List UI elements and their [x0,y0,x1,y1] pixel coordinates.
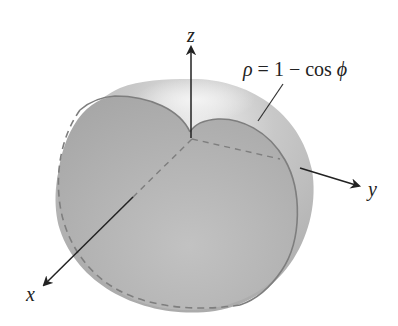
y-axis-label: y [368,178,377,201]
x-axis-label: x [26,283,35,306]
z-axis-label: z [187,24,195,47]
cardioid-diagram [0,0,398,326]
equation-rho: ρ [243,58,253,80]
equation-phi: ϕ [337,58,347,80]
equation-body: = 1 − cos [253,58,337,80]
equation-label: ρ = 1 − cos ϕ [243,58,347,81]
